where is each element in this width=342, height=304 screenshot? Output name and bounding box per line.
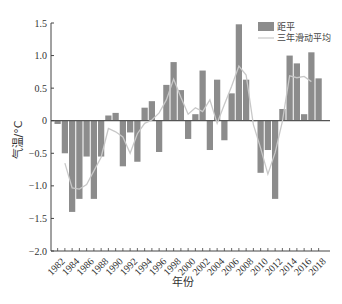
y-tick-label: 1.0 bbox=[35, 50, 48, 61]
y-tick-label: −0.5 bbox=[29, 148, 47, 159]
bar-1984 bbox=[69, 121, 75, 212]
bar-1996 bbox=[156, 121, 162, 152]
bar-1998 bbox=[171, 62, 177, 121]
legend-bar-label: 距平 bbox=[277, 22, 295, 32]
y-axis-title: 气温/°C bbox=[11, 120, 25, 159]
y-tick-label: −2.0 bbox=[29, 246, 47, 257]
bar-1986 bbox=[84, 121, 90, 157]
bar-2005 bbox=[221, 121, 227, 141]
y-tick-label: 1.5 bbox=[35, 18, 48, 29]
bar-2017 bbox=[308, 52, 314, 120]
y-axis: 1.51.00.50−0.5−1.0−1.5−2.0 bbox=[29, 18, 54, 257]
legend-bar-swatch bbox=[258, 22, 274, 31]
bar-2000 bbox=[185, 121, 191, 139]
y-tick-label: 0.5 bbox=[35, 83, 48, 94]
bar-1994 bbox=[142, 108, 148, 121]
legend: 距平 三年滑动平均 bbox=[258, 22, 331, 43]
x-axis-title: 年份 bbox=[172, 275, 194, 289]
legend-line-label: 三年滑动平均 bbox=[277, 32, 331, 43]
y-tick-label: 0 bbox=[42, 115, 47, 126]
x-tick-label: 2018 bbox=[306, 256, 328, 278]
x-axis: 1982198419861988199019921994199619982000… bbox=[45, 248, 330, 278]
bar-1983 bbox=[62, 121, 68, 154]
y-tick-label: −1.0 bbox=[29, 180, 47, 191]
y-tick-label: −1.5 bbox=[29, 213, 47, 224]
anomaly-bars bbox=[55, 24, 322, 212]
bar-1987 bbox=[91, 121, 97, 199]
bar-2001 bbox=[192, 114, 198, 121]
bar-2011 bbox=[265, 121, 271, 150]
temperature-anomaly-chart: 1.51.00.50−0.5−1.0−1.5−2.0 1982198419861… bbox=[0, 0, 342, 304]
bar-2018 bbox=[316, 78, 322, 120]
bar-1990 bbox=[113, 113, 119, 121]
bar-2015 bbox=[294, 63, 300, 120]
bar-2016 bbox=[301, 114, 307, 121]
bar-2006 bbox=[229, 93, 235, 120]
bar-1999 bbox=[178, 90, 184, 121]
bar-2002 bbox=[200, 71, 206, 121]
bar-2003 bbox=[207, 121, 213, 150]
bar-1989 bbox=[105, 116, 111, 121]
bar-1992 bbox=[127, 121, 133, 133]
bar-1991 bbox=[120, 121, 126, 167]
